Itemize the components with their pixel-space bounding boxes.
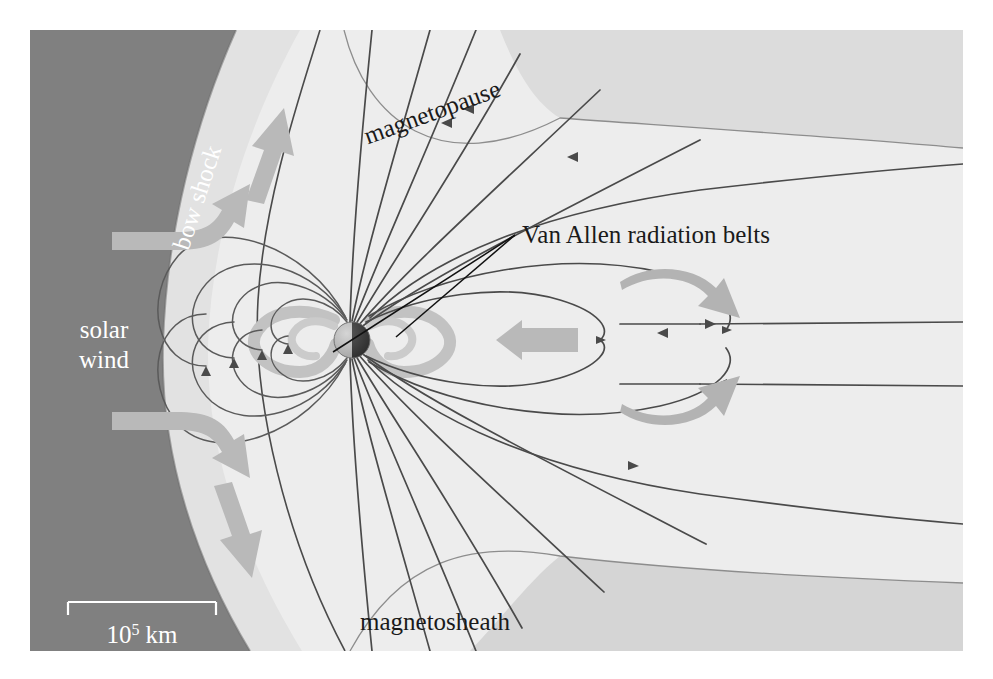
scale-bar-unit: km bbox=[146, 621, 179, 648]
frame-right bbox=[963, 0, 993, 679]
frame-bottom bbox=[0, 651, 993, 679]
solar-wind-label-line1: solar bbox=[80, 316, 129, 343]
scale-bar-mantissa: 10 bbox=[107, 621, 132, 648]
magnetosphere-figure: bow shock magnetopause magnetosheath sol… bbox=[0, 0, 993, 679]
region-layer bbox=[30, 30, 963, 651]
frame-top bbox=[0, 0, 993, 30]
solar-wind-label-line2: wind bbox=[79, 346, 130, 373]
magnetosheath-label: magnetosheath bbox=[360, 608, 510, 635]
frame-left bbox=[0, 0, 30, 679]
diagram-canvas: bow shock magnetopause magnetosheath sol… bbox=[0, 0, 993, 679]
van-allen-label: Van Allen radiation belts bbox=[522, 221, 770, 248]
scale-bar-exponent: 5 bbox=[132, 621, 140, 638]
